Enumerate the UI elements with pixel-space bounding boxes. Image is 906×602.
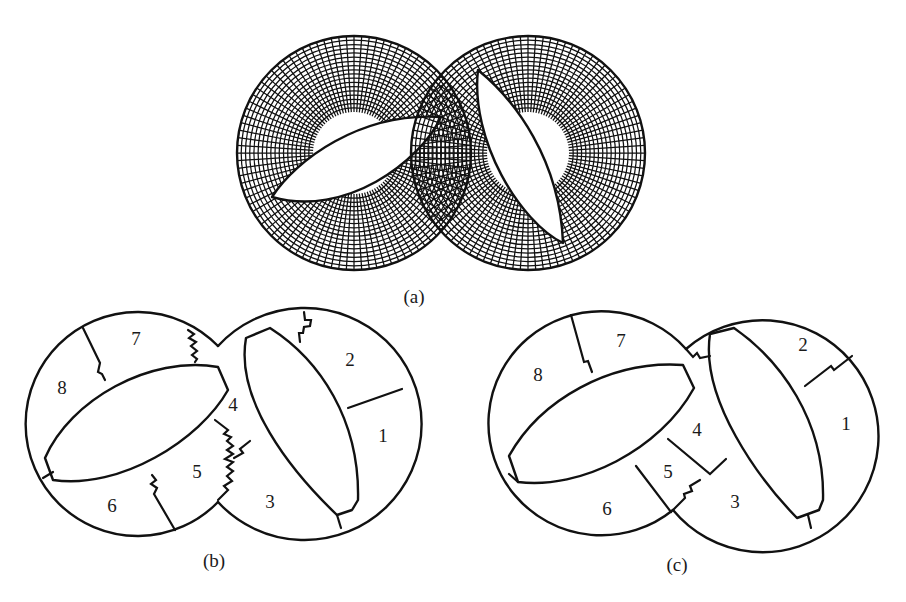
mesh-ring-line [479,104,578,203]
c-label-3: 3 [730,491,740,512]
caption-c: (c) [666,554,687,576]
b-interface-5-4 [215,420,233,500]
b-interface-7-4 [188,330,197,362]
b-label-5: 5 [192,461,202,482]
mesh-ring-line [483,108,573,198]
c-interface-8-7 [571,315,592,372]
c-label-5: 5 [663,461,673,482]
b-label-2: 2 [345,349,355,370]
b-right-lens-hole [245,328,358,515]
c-label-6: 6 [602,498,612,519]
panel-b: 1 2 3 4 5 6 7 8 (b) [26,308,422,572]
figure: (a) 1 2 3 4 5 6 [0,0,906,602]
b-interface-8-7 [83,328,105,380]
c-label-1: 1 [841,413,851,434]
b-label-8: 8 [57,377,67,398]
b-label-3: 3 [265,491,275,512]
caption-a: (a) [403,286,424,308]
c-interface-5-3 [673,480,700,510]
b-left-circle-boundary [26,312,218,536]
b-label-1: 1 [378,425,388,446]
c-label-4: 4 [692,419,702,440]
c-interface-3-1 [808,515,811,528]
b-interface-6-5 [151,475,175,530]
c-left-circle-boundary [488,311,686,535]
panel-a: (a) [237,36,645,308]
panel-c: 1 2 3 4 5 6 7 8 (c) [488,311,878,576]
c-interface-7-4 [686,349,710,358]
b-label-4: 4 [228,394,238,415]
c-label-2: 2 [798,334,808,355]
c-right-circle-boundary [673,320,878,552]
b-interface-2-top [299,312,311,342]
mesh-ring-line [296,95,412,211]
b-label-6: 6 [107,495,117,516]
b-interface-3-1 [337,515,341,528]
mesh-ring-line [305,104,404,203]
c-right-lens-hole [709,328,823,518]
mesh-ring-line [470,95,586,211]
b-subdomain-labels: 1 2 3 4 5 6 7 8 [57,328,388,516]
b-interface-4-3 [234,441,250,458]
c-label-7: 7 [616,330,626,351]
b-right-circle-boundary [218,308,422,540]
caption-b: (b) [203,550,225,572]
c-label-8: 8 [533,364,543,385]
c-interface-2-1 [805,356,852,386]
b-interface-2-1 [348,389,402,408]
c-interface-5-4 [668,439,726,474]
b-label-7: 7 [131,328,141,349]
